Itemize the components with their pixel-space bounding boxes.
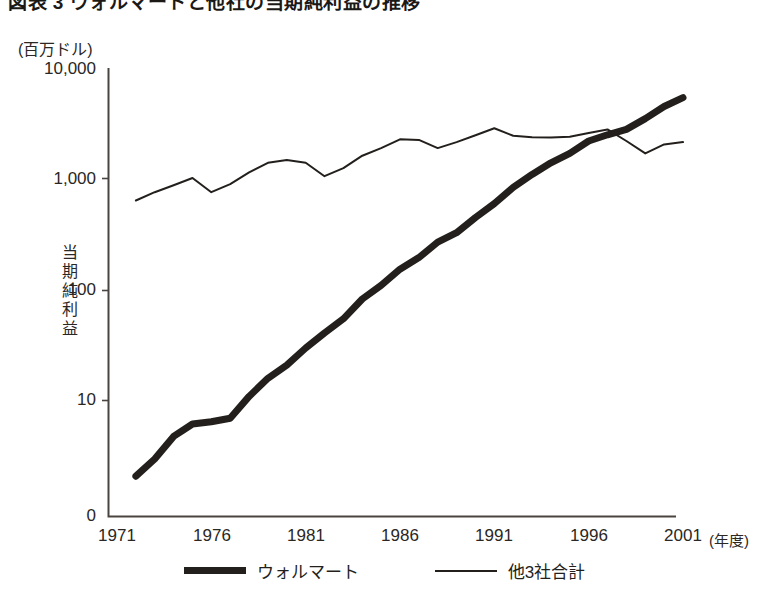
plot-area bbox=[0, 0, 769, 614]
legend-label-walmart: ウォルマート bbox=[257, 558, 359, 583]
legend-entry-other3: 他3社合計 bbox=[435, 558, 585, 583]
chart-legend: ウォルマート 他3社合計 bbox=[0, 558, 769, 583]
legend-swatch-thick-icon bbox=[184, 567, 246, 574]
chart-figure: 図表 3 ウォルマートと他社の当期純利益の推移 (百万ドル) 当 期 純 利 益… bbox=[0, 0, 769, 614]
axis-lines bbox=[109, 68, 677, 517]
legend-swatch-thin-icon bbox=[435, 570, 497, 572]
series-line-walmart bbox=[136, 98, 683, 477]
legend-label-other3: 他3社合計 bbox=[508, 558, 585, 583]
legend-entry-walmart: ウォルマート bbox=[184, 558, 359, 583]
